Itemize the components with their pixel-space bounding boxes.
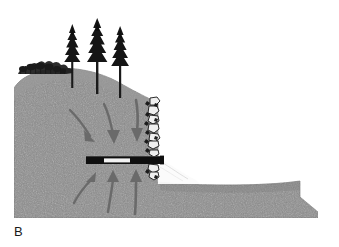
panel-label: B (14, 225, 23, 238)
pipe-segment-solid-left (86, 157, 104, 163)
soil-body (14, 68, 318, 218)
pipe-outlet (160, 156, 164, 165)
pipe-segment-perforated (104, 158, 130, 162)
figure-container: B (0, 0, 339, 247)
horizontal-drain-pipe (86, 156, 164, 165)
slope-cross-section-diagram (0, 0, 339, 247)
pipe-segment-solid-right (130, 157, 164, 163)
pipe-highlight (86, 156, 164, 157)
hillslope-soil-mass (14, 68, 318, 218)
crest-shrub (18, 61, 73, 74)
